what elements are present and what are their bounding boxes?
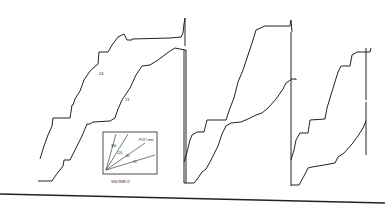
- panel-2-lower-trace: [184, 79, 296, 183]
- inset-graph: 10 MINUTES PO2 / mm 380 120 60 15: [103, 132, 157, 183]
- figure: 24 21 10 MINUTES PO2 / mm 380 120 60 15: [0, 0, 385, 209]
- inset-line-2: 120: [117, 151, 123, 155]
- panel-3-upper-trace: [291, 48, 371, 160]
- bottom-rule: [0, 194, 385, 203]
- label-21: 21: [125, 97, 130, 102]
- panel-2-upper-trace: [184, 20, 292, 162]
- panel-3: [291, 48, 371, 185]
- inset-line-4: 15: [133, 160, 137, 164]
- panel-2: [184, 20, 296, 186]
- inset-line-1: 380: [111, 144, 117, 148]
- inset-line-3: 60: [126, 154, 130, 158]
- panel-3-lower-trace: [291, 121, 366, 185]
- inset-x-label: 10 MINUTES: [111, 179, 130, 183]
- label-24: 24: [99, 71, 104, 76]
- inset-legend-title: PO2 / mm: [139, 138, 154, 142]
